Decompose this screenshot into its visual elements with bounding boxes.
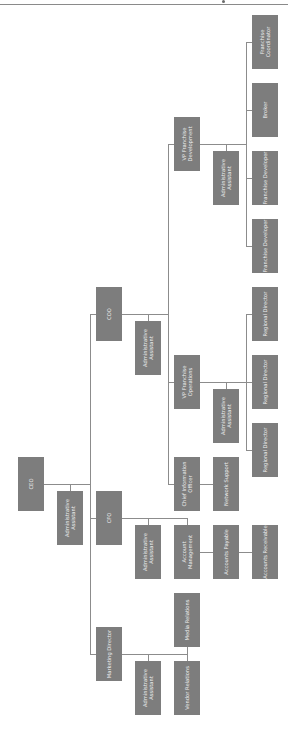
node-vp-dev-admin-assistant: Administrative Assistant bbox=[213, 151, 239, 205]
node-label: Vendor Relations bbox=[184, 661, 190, 715]
connector bbox=[70, 484, 71, 491]
node-label: Regional Director bbox=[262, 287, 268, 341]
connector bbox=[200, 552, 213, 553]
node-ceo: CEO bbox=[18, 457, 44, 511]
node-label: Franchise Coordinator bbox=[259, 15, 271, 69]
node-label: CEO bbox=[28, 457, 34, 511]
connector bbox=[122, 654, 188, 655]
node-label: Accounts Payable bbox=[223, 525, 229, 579]
connector bbox=[226, 144, 227, 151]
connector bbox=[122, 314, 168, 315]
node-label: Network Support bbox=[223, 457, 229, 511]
node-label: Accounts Receivable bbox=[262, 525, 268, 579]
node-franchise-developer: Franchise Developer bbox=[252, 151, 278, 205]
node-cfo-admin-assistant: Administrative Assistant bbox=[135, 525, 161, 579]
node-label: Franchise Developer bbox=[262, 151, 268, 205]
node-accounts-receivable: Accounts Receivable bbox=[252, 525, 278, 579]
connector bbox=[246, 42, 247, 246]
node-vp-franchise-development: VP Franchise Development bbox=[174, 117, 200, 171]
node-coo-admin-assistant: Administrative Assistant bbox=[135, 321, 161, 375]
node-label: Regional Director bbox=[262, 355, 268, 409]
node-vp-ops-admin-assistant: Administrative Assistant bbox=[213, 389, 239, 443]
node-marketing-director: Marketing Director bbox=[96, 627, 122, 681]
connector bbox=[148, 314, 149, 321]
node-label: Administrative Assistant bbox=[220, 389, 232, 443]
page-header-rule bbox=[0, 4, 288, 5]
node-label: Broker bbox=[262, 83, 268, 137]
connector bbox=[148, 654, 149, 661]
node-franchise-developer: Franchise Developer bbox=[252, 219, 278, 273]
node-label: VP Franchise Development bbox=[181, 117, 193, 171]
node-vp-franchise-operations: VP Franchise Operations bbox=[174, 355, 200, 409]
node-label: Administrative Assistant bbox=[64, 491, 76, 545]
node-label: VP Franchise Operations bbox=[181, 355, 193, 409]
node-label: Administrative Assistant bbox=[142, 321, 154, 375]
node-regional-director: Regional Director bbox=[252, 423, 278, 477]
node-label: Administrative Assistant bbox=[220, 151, 232, 205]
node-broker: Broker bbox=[252, 83, 278, 137]
node-regional-director: Regional Director bbox=[252, 355, 278, 409]
node-label: Administrative Assistant bbox=[142, 525, 154, 579]
node-franchise-coordinator: Franchise Coordinator bbox=[252, 15, 278, 69]
page-header-mark bbox=[222, 0, 225, 3]
node-cfo: CFO bbox=[96, 491, 122, 545]
node-marketing-admin-assistant: Administrative Assistant bbox=[135, 661, 161, 715]
connector bbox=[187, 518, 188, 525]
node-label: Franchise Developer bbox=[262, 219, 268, 273]
connector bbox=[187, 647, 188, 661]
connector bbox=[200, 484, 213, 485]
node-media-relations: Media Relations bbox=[174, 593, 200, 647]
node-accounts-payable: Accounts Payable bbox=[213, 525, 239, 579]
node-label: Media Relations bbox=[184, 593, 190, 647]
node-network-support: Network Support bbox=[213, 457, 239, 511]
node-label: Account Management bbox=[181, 525, 193, 579]
connector bbox=[226, 382, 227, 389]
node-label: Chief Information Officer bbox=[181, 457, 193, 511]
node-regional-director: Regional Director bbox=[252, 287, 278, 341]
node-vendor-relations: Vendor Relations bbox=[174, 661, 200, 715]
connector bbox=[90, 314, 91, 654]
node-label: Administrative Assistant bbox=[142, 661, 154, 715]
node-account-management: Account Management bbox=[174, 525, 200, 579]
connector bbox=[168, 144, 169, 484]
node-label: Regional Director bbox=[262, 423, 268, 477]
connector bbox=[122, 518, 188, 519]
node-label: Marketing Director bbox=[106, 627, 112, 681]
node-chief-information-officer: Chief Information Officer bbox=[174, 457, 200, 511]
connector bbox=[148, 518, 149, 525]
node-label: COO bbox=[106, 287, 112, 341]
connector bbox=[239, 552, 252, 553]
connector bbox=[44, 484, 91, 485]
node-ceo-admin-assistant: Administrative Assistant bbox=[57, 491, 83, 545]
connector bbox=[200, 382, 246, 383]
node-label: CFO bbox=[106, 491, 112, 545]
connector bbox=[200, 144, 246, 145]
node-coo: COO bbox=[96, 287, 122, 341]
